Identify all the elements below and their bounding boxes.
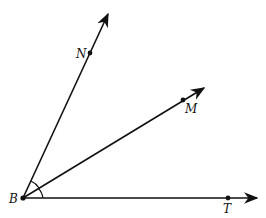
label-t: T — [223, 202, 232, 216]
label-b: B — [8, 192, 18, 206]
ray-bm — [23, 88, 204, 198]
angle-arc-mbt — [38, 188, 43, 198]
angle-diagram: B N M T — [0, 0, 266, 218]
point-b — [20, 195, 25, 200]
point-t — [226, 196, 231, 201]
angle-arc-nbm — [31, 181, 39, 188]
point-n — [88, 51, 93, 56]
ray-bn — [23, 14, 108, 198]
label-n: N — [75, 47, 87, 61]
label-m: M — [184, 102, 198, 116]
